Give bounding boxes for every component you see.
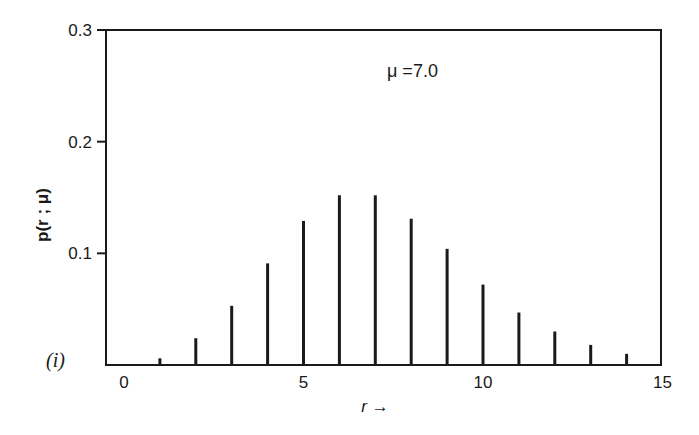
x-axis-ticks: 051015 xyxy=(119,373,672,392)
x-tick-label: 10 xyxy=(474,373,493,392)
y-tick-label: 0.1 xyxy=(68,244,92,263)
x-tick-label: 5 xyxy=(299,373,308,392)
y-axis-ticks: 0.10.20.3 xyxy=(68,21,106,263)
y-tick-label: 0.2 xyxy=(68,133,92,152)
x-tick-label: 15 xyxy=(653,373,672,392)
panel-label: (i) xyxy=(46,349,65,372)
x-axis-label: r → xyxy=(361,397,388,416)
y-axis-label: p(r ; μ) xyxy=(33,188,52,242)
x-tick-label: 0 xyxy=(119,373,128,392)
y-tick-label: 0.3 xyxy=(68,21,92,40)
poisson-distribution-chart: 0.10.20.3 051015 μ =7.0 (i) r → p(r ; μ) xyxy=(0,0,699,435)
bars-group xyxy=(160,195,627,365)
mu-annotation: μ =7.0 xyxy=(387,61,438,81)
plot-frame xyxy=(106,30,661,365)
